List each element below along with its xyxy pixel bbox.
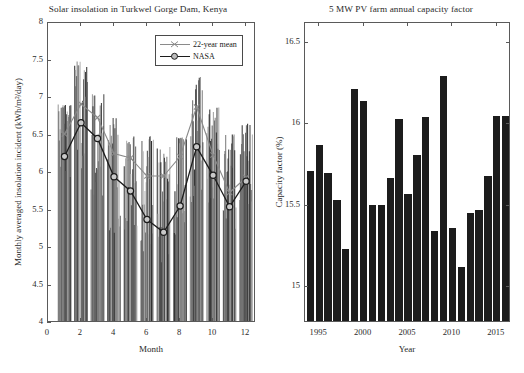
left-y-tick-4: 6 — [11, 166, 43, 176]
legend-marker-x-icon — [160, 40, 190, 49]
capacity-bar — [467, 213, 474, 321]
capacity-bar — [431, 231, 438, 321]
left-y-tick-2: 5 — [11, 241, 43, 251]
chart-panel-solar-insolation: Solar insolation in Turkwel Gorge Dam, K… — [0, 0, 266, 373]
capacity-bar — [502, 116, 509, 321]
series-marker-circle — [161, 229, 167, 235]
left-x-tick-3: 6 — [132, 327, 160, 337]
right-y-tick-1: 15.5 — [270, 199, 300, 209]
series-marker-x — [95, 115, 100, 120]
right-x-tickmark-1 — [363, 22, 364, 26]
left-x-tickmark-5 — [212, 22, 213, 26]
left-plot-area — [47, 22, 255, 322]
series-line-22-year-mean — [65, 104, 247, 193]
capacity-bar — [324, 173, 331, 321]
capacity-bar — [440, 76, 447, 321]
capacity-bar — [475, 210, 482, 321]
capacity-bar — [342, 249, 349, 321]
capacity-bar — [307, 171, 314, 321]
right-x-tick-0: 1995 — [300, 327, 336, 337]
capacity-bar — [333, 200, 340, 321]
right-x-tick-3: 2010 — [433, 327, 469, 337]
capacity-bar — [316, 145, 323, 321]
right-x-tick-1: 2000 — [345, 327, 381, 337]
left-y-tickmark-7 — [47, 60, 51, 61]
series-marker-circle — [94, 135, 100, 141]
capacity-bar — [369, 205, 376, 321]
series-marker-circle — [144, 216, 150, 222]
right-y-tickmark-0 — [304, 286, 308, 287]
left-y-tick-6: 7 — [11, 91, 43, 101]
right-x-tickmark-4 — [496, 22, 497, 26]
left-x-tickmark-2 — [113, 318, 114, 322]
left-x-axis-label: Month — [47, 344, 255, 354]
left-x-tick-4: 8 — [165, 327, 193, 337]
capacity-bar — [458, 267, 465, 321]
left-x-tick-1: 2 — [66, 327, 94, 337]
left-x-tickmark-5 — [212, 318, 213, 322]
series-marker-circle — [194, 144, 200, 150]
series-marker-circle — [78, 120, 84, 126]
capacity-bar — [413, 155, 420, 321]
left-x-tickmark-2 — [113, 22, 114, 26]
left-x-tick-5: 10 — [198, 327, 226, 337]
series-marker-x — [227, 190, 232, 195]
left-x-tickmark-0 — [47, 318, 48, 322]
left-y-tick-3: 5.5 — [11, 204, 43, 214]
right-y-tick-0: 15 — [270, 280, 300, 290]
capacity-bar — [404, 194, 411, 321]
left-y-tickmark-0 — [47, 322, 51, 323]
series-marker-circle — [127, 188, 133, 194]
left-x-tickmark-0 — [47, 22, 48, 26]
legend-label-mean: 22-year mean — [193, 39, 237, 51]
capacity-bar — [484, 176, 491, 321]
left-series-lines — [48, 23, 255, 322]
right-x-tickmark-2 — [407, 22, 408, 26]
right-plot-area — [304, 22, 510, 322]
right-y-tickmark-1 — [506, 205, 510, 206]
left-y-tickmark-1 — [47, 285, 51, 286]
capacity-bar — [360, 101, 367, 321]
left-x-tick-6: 12 — [231, 327, 259, 337]
left-y-tick-5: 6.5 — [11, 129, 43, 139]
right-y-tickmark-2 — [304, 123, 308, 124]
left-x-tickmark-3 — [146, 22, 147, 26]
right-y-tick-3: 16.5 — [270, 36, 300, 46]
left-y-tick-8: 8 — [11, 16, 43, 26]
series-marker-x — [78, 101, 83, 106]
right-x-tick-4: 2015 — [478, 327, 514, 337]
series-marker-circle — [177, 203, 183, 209]
left-y-tickmark-2 — [47, 247, 51, 248]
series-marker-circle — [111, 174, 117, 180]
left-x-tickmark-1 — [80, 318, 81, 322]
right-y-tickmark-2 — [506, 123, 510, 124]
series-marker-circle — [61, 153, 67, 159]
left-x-tickmark-6 — [245, 22, 246, 26]
series-marker-x — [194, 104, 199, 109]
capacity-bar — [422, 117, 429, 321]
right-y-tickmark-1 — [304, 205, 308, 206]
left-x-tick-2: 4 — [99, 327, 127, 337]
figure-canvas: Solar insolation in Turkwel Gorge Dam, K… — [0, 0, 524, 373]
capacity-bar — [493, 116, 500, 321]
series-marker-circle — [227, 204, 233, 210]
right-x-tickmark-0 — [318, 22, 319, 26]
right-y-tickmark-0 — [506, 286, 510, 287]
capacity-bar — [351, 89, 358, 321]
right-y-tickmark-3 — [304, 42, 308, 43]
left-chart-title: Solar insolation in Turkwel Gorge Dam, K… — [10, 4, 266, 14]
capacity-bar — [387, 178, 394, 321]
right-x-tick-2: 2005 — [389, 327, 425, 337]
left-y-tick-7: 7.5 — [11, 54, 43, 64]
right-y-tickmark-3 — [506, 42, 510, 43]
legend-marker-circle-icon — [160, 52, 190, 61]
left-x-tick-0: 0 — [33, 327, 61, 337]
series-marker-x — [210, 152, 215, 157]
right-chart-title: 5 MW PV farm annual capacity factor — [278, 4, 524, 14]
left-y-tickmark-5 — [47, 135, 51, 136]
left-y-tick-0: 4 — [11, 316, 43, 326]
left-chart-legend: 22-year mean NASA — [155, 35, 243, 66]
left-y-tick-1: 4.5 — [11, 279, 43, 289]
series-line-nasa — [65, 123, 247, 233]
left-x-tickmark-6 — [245, 318, 246, 322]
